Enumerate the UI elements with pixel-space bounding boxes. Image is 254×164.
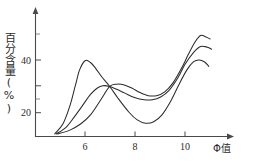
plot-canvas: 20 40 6 8 10 Φ值 bbox=[0, 0, 254, 164]
chart-figure: 百分含量(%) 20 40 6 8 bbox=[0, 0, 254, 164]
x-tick-label-8: 8 bbox=[133, 141, 138, 152]
x-axis-label: Φ值 bbox=[213, 142, 231, 154]
y-axis bbox=[33, 7, 39, 137]
y-tick-label-20: 20 bbox=[21, 107, 31, 118]
data-curves-group bbox=[55, 35, 212, 134]
data-curve-1 bbox=[55, 60, 209, 134]
data-curve-2 bbox=[56, 46, 211, 134]
y-axis-label: 百分含量(%) bbox=[4, 32, 15, 115]
y-axis-arrowhead bbox=[33, 7, 39, 14]
x-tick-label-10: 10 bbox=[180, 141, 190, 152]
x-axis-ticks bbox=[85, 132, 185, 137]
y-tick-label-40: 40 bbox=[21, 55, 31, 66]
y-axis-ticks bbox=[36, 34, 42, 113]
x-axis-arrowhead bbox=[227, 134, 234, 140]
data-curve-3 bbox=[58, 35, 211, 134]
y-axis-label-container: 百分含量(%) bbox=[1, 18, 17, 128]
x-tick-label-6: 6 bbox=[83, 141, 88, 152]
